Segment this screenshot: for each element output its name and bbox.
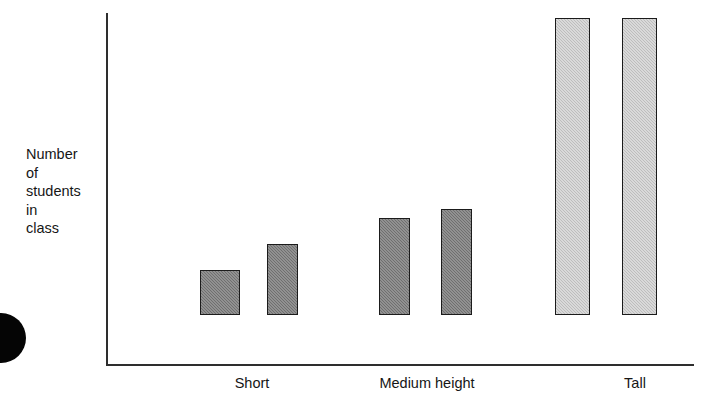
bar-medium-1 <box>379 218 410 315</box>
bar-short-2 <box>267 244 298 315</box>
bar-medium-2 <box>441 209 472 315</box>
x-axis-label-medium: Medium height <box>379 375 474 392</box>
bar-tall-2 <box>622 18 657 315</box>
x-axis-label-tall: Tall <box>624 375 646 392</box>
bar-tall-1 <box>555 18 590 315</box>
plot-area <box>0 0 703 366</box>
x-axis-label-short: Short <box>235 375 270 392</box>
bar-chart-figure: Number of students in class Short Medium… <box>0 0 703 416</box>
bar-short-1 <box>200 270 240 315</box>
